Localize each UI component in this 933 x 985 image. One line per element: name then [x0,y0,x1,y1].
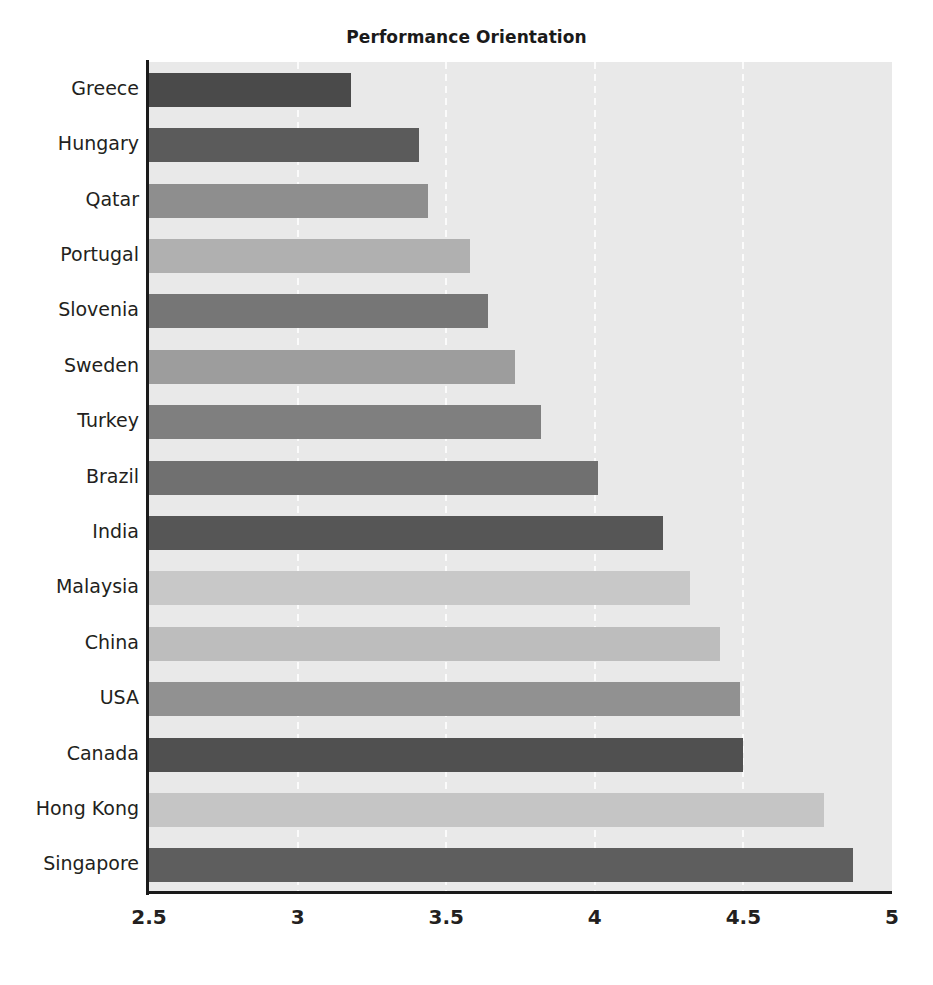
bar-row [149,239,892,273]
bar-china[interactable] [149,627,720,661]
bar-sweden[interactable] [149,350,515,384]
bar-row [149,682,892,716]
y-label-greece: Greece [3,77,139,99]
bar-hungary[interactable] [149,128,419,162]
chart-title: Performance Orientation [0,27,933,47]
plot-area [149,62,892,893]
bar-row [149,405,892,439]
y-label-malaysia: Malaysia [3,575,139,597]
x-tick-label-3.5: 3.5 [428,905,463,929]
bar-turkey[interactable] [149,405,541,439]
y-label-canada: Canada [3,742,139,764]
chart-figure: Performance Orientation GreeceHungaryQat… [0,0,933,985]
bar-row [149,294,892,328]
y-label-usa: USA [3,686,139,708]
bar-hong-kong[interactable] [149,793,824,827]
bar-row [149,627,892,661]
x-tick-label-4: 4 [588,905,602,929]
bar-india[interactable] [149,516,663,550]
bar-row [149,793,892,827]
y-label-slovenia: Slovenia [3,298,139,320]
bar-slovenia[interactable] [149,294,488,328]
bar-brazil[interactable] [149,461,598,495]
y-axis-category-labels: GreeceHungaryQatarPortugalSloveniaSweden… [0,0,139,985]
x-tick-label-2.5: 2.5 [131,905,166,929]
y-label-brazil: Brazil [3,465,139,487]
bar-canada[interactable] [149,738,743,772]
bar-row [149,571,892,605]
bar-greece[interactable] [149,73,351,107]
y-label-singapore: Singapore [3,852,139,874]
y-axis-line [146,60,149,895]
bar-row [149,128,892,162]
x-tick-label-3: 3 [291,905,305,929]
bar-row [149,516,892,550]
bar-malaysia[interactable] [149,571,690,605]
bar-qatar[interactable] [149,184,428,218]
y-label-sweden: Sweden [3,354,139,376]
y-label-portugal: Portugal [3,243,139,265]
x-tick-label-4.5: 4.5 [726,905,761,929]
bar-row [149,738,892,772]
y-label-hong-kong: Hong Kong [3,797,139,819]
bar-usa[interactable] [149,682,740,716]
bar-row [149,848,892,882]
y-label-india: India [3,520,139,542]
bar-portugal[interactable] [149,239,470,273]
bar-row [149,461,892,495]
x-axis-line [146,891,892,894]
y-label-turkey: Turkey [3,409,139,431]
bar-row [149,73,892,107]
bar-row [149,184,892,218]
y-label-china: China [3,631,139,653]
y-label-qatar: Qatar [3,188,139,210]
y-label-hungary: Hungary [3,132,139,154]
x-tick-label-5: 5 [885,905,899,929]
bar-singapore[interactable] [149,848,853,882]
bar-row [149,350,892,384]
